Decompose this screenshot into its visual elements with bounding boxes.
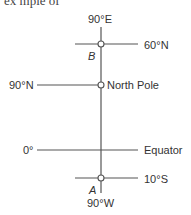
label-equator: Equator bbox=[144, 144, 183, 156]
label-90w: 90°W bbox=[87, 197, 114, 209]
north-pole-marker bbox=[98, 82, 104, 88]
label-90e: 90°E bbox=[88, 13, 112, 25]
label-10s: 10°S bbox=[144, 173, 168, 185]
label-point-a: A bbox=[89, 184, 96, 196]
point-a-marker bbox=[98, 175, 104, 181]
point-b-marker bbox=[98, 41, 104, 47]
label-point-b: B bbox=[88, 50, 95, 62]
label-north-pole: North Pole bbox=[107, 79, 159, 91]
label-0deg: 0° bbox=[23, 144, 34, 156]
label-60n: 60°N bbox=[144, 39, 169, 51]
label-90n: 90°N bbox=[9, 79, 34, 91]
